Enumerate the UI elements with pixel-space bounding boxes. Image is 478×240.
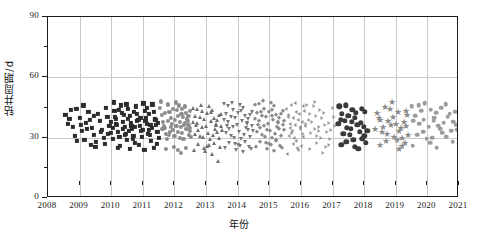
scatter-point [193, 132, 197, 136]
x-axis-tick [110, 181, 111, 185]
scatter-point [79, 123, 83, 127]
scatter-point [363, 140, 368, 145]
scatter-point: ★ [402, 123, 410, 131]
x-axis-tick [426, 181, 427, 185]
scatter-point [216, 159, 220, 163]
y-axis-minor-tick [44, 107, 47, 108]
scatter-point [165, 137, 169, 141]
scatter-point [179, 151, 183, 155]
scatter-point [344, 139, 349, 144]
scatter-point [341, 131, 346, 136]
scatter-point [85, 127, 89, 131]
scatter-point [444, 134, 449, 139]
scatter-point: ★ [403, 112, 411, 120]
scatter-point [149, 139, 153, 143]
scatter-point [103, 142, 107, 146]
scatter-point [450, 139, 455, 144]
scatter-point [71, 125, 75, 129]
scatter-point [230, 101, 234, 105]
scatter-point [315, 114, 318, 118]
scatter-point [126, 106, 130, 110]
scatter-point [303, 109, 306, 113]
scatter-point [157, 136, 161, 140]
scatter-point [339, 111, 344, 116]
scatter-point [93, 145, 97, 149]
scatter-point [336, 121, 341, 126]
scatter-point [312, 104, 315, 108]
scatter-point [261, 123, 266, 128]
scatter-point [209, 119, 213, 123]
scatter-point [143, 118, 147, 122]
scatter-point [175, 107, 179, 111]
scatter-point [280, 145, 285, 150]
scatter-point [141, 128, 145, 132]
scatter-point [454, 122, 457, 127]
scatter-point [214, 122, 218, 126]
scatter-point [234, 148, 238, 152]
scatter-point [348, 126, 353, 131]
scatter-point [207, 143, 211, 147]
scatter-point [132, 109, 136, 113]
scatter-point [166, 102, 170, 106]
scatter-point: ★ [371, 126, 379, 134]
scatter-point [326, 130, 329, 134]
scatter-point [248, 135, 252, 139]
scatter-point [212, 141, 216, 145]
scatter-point [318, 129, 321, 133]
scatter-point [329, 137, 332, 141]
scatter-point [294, 123, 297, 127]
scatter-point [75, 139, 79, 143]
scatter-point [281, 127, 286, 132]
scatter-point [238, 144, 242, 148]
scatter-point [73, 134, 77, 138]
scatter-point [111, 137, 115, 141]
scatter-point [231, 125, 235, 129]
scatter-point [239, 137, 243, 141]
y-axis-tick-label: 90 [13, 10, 39, 20]
scatter-point [153, 117, 157, 121]
scatter-point [128, 147, 132, 151]
scatter-point [118, 144, 122, 148]
scatter-point [431, 118, 436, 123]
x-axis-tick [142, 181, 143, 185]
scatter-point [227, 141, 231, 145]
scatter-point [194, 123, 198, 127]
x-axis-tick-label: 2021 [438, 200, 478, 210]
scatter-point [224, 112, 228, 116]
scatter-point: ★ [384, 118, 392, 126]
scatter-point [417, 121, 422, 126]
x-axis-title: 年份 [0, 216, 478, 231]
x-axis-tick [47, 181, 48, 185]
y-axis-tick-label: 0 [13, 191, 39, 201]
scatter-point [353, 110, 358, 115]
scatter-point [186, 113, 190, 117]
scatter-point: ★ [375, 115, 383, 123]
scatter-point [160, 127, 164, 131]
scatter-point [134, 118, 138, 122]
scatter-point [123, 133, 127, 137]
scatter-point [193, 114, 197, 118]
scatter-point [435, 145, 440, 150]
scatter-point [125, 138, 129, 142]
scatter-point [411, 118, 416, 123]
scatter-point [413, 113, 418, 118]
scatter-point [254, 144, 259, 149]
scatter-point [445, 114, 450, 119]
y-axis-tick [42, 76, 47, 77]
scatter-point [331, 106, 334, 110]
scatter-point [94, 140, 98, 144]
scatter-point: ★ [382, 138, 390, 146]
chart-plot-frame: ★★★★★★★★★★★★★★★★★★★★★★★★★★★★★★ [47, 16, 458, 197]
scatter-point [67, 116, 71, 120]
scatter-point [240, 119, 244, 123]
scatter-point: ★ [404, 132, 412, 140]
scatter-point [137, 143, 141, 147]
scatter-point [218, 145, 222, 149]
scatter-point [416, 103, 421, 108]
scatter-point [145, 105, 149, 109]
scatter-point [142, 148, 146, 152]
x-axis-tick [363, 181, 364, 185]
scatter-point [147, 111, 151, 115]
x-axis-tick [79, 181, 80, 185]
scatter-point [321, 116, 324, 120]
